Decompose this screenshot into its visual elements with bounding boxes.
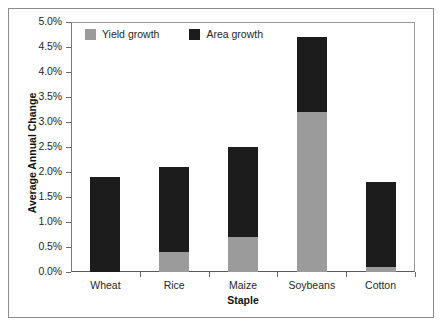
x-axis-tick-mark [140, 272, 141, 277]
bar-segment-area-growth [297, 37, 327, 112]
x-axis-title: Staple [71, 294, 415, 306]
y-axis-tick-mark [66, 22, 71, 23]
bar-cotton [366, 182, 396, 272]
y-axis-tick-mark [66, 222, 71, 223]
x-axis-tick-mark [277, 272, 278, 277]
legend-swatch-icon [189, 29, 200, 40]
y-axis-tick-mark [66, 72, 71, 73]
legend-label: Area growth [206, 28, 263, 40]
bar-rice [159, 167, 189, 272]
legend-item-yield-growth: Yield growth [85, 28, 159, 40]
y-axis-tick-label: 0.5% [38, 240, 62, 252]
bar-soybeans [297, 37, 327, 272]
x-axis-tick-mark [346, 272, 347, 277]
y-axis-tick-label: 3.5% [38, 90, 62, 102]
chart-legend: Yield growthArea growth [85, 28, 263, 40]
x-axis-tick-mark [209, 272, 210, 277]
y-axis-tick-label: 5.0% [38, 15, 62, 27]
bar-wheat [90, 177, 120, 272]
bar-segment-area-growth [90, 177, 120, 272]
y-axis-title: Average Annual Change [26, 63, 38, 243]
y-axis-tick-mark [66, 122, 71, 123]
x-axis-label-maize: Maize [209, 279, 278, 291]
bar-segment-yield-growth [228, 237, 258, 272]
bar-segment-area-growth [159, 167, 189, 252]
x-axis-label-rice: Rice [140, 279, 209, 291]
y-axis-tick-label: 4.5% [38, 40, 62, 52]
y-axis-tick-mark [66, 247, 71, 248]
y-axis-tick-mark [66, 47, 71, 48]
x-axis-label-cotton: Cotton [346, 279, 415, 291]
legend-label: Yield growth [102, 28, 159, 40]
bar-segment-area-growth [228, 147, 258, 237]
y-axis-tick-mark [66, 172, 71, 173]
y-axis-tick-label: 2.0% [38, 165, 62, 177]
legend-swatch-icon [85, 29, 96, 40]
chart-figure: 0.0%0.5%1.0%1.5%2.0%2.5%3.0%3.5%4.0%4.5%… [0, 0, 444, 326]
y-axis-tick-mark [66, 272, 71, 273]
y-axis-tick-label: 0.0% [38, 265, 62, 277]
bar-segment-yield-growth [159, 252, 189, 272]
y-axis-tick-label: 1.0% [38, 215, 62, 227]
bar-segment-area-growth [366, 182, 396, 267]
y-axis-tick-mark [66, 197, 71, 198]
bar-segment-yield-growth [366, 267, 396, 272]
y-axis-tick-label: 1.5% [38, 190, 62, 202]
y-axis-tick-label: 4.0% [38, 65, 62, 77]
x-axis-tick-mark [415, 272, 416, 277]
y-axis-tick-mark [66, 147, 71, 148]
y-axis-tick-label: 3.0% [38, 115, 62, 127]
y-axis-tick-mark [66, 97, 71, 98]
y-axis-tick-label: 2.5% [38, 140, 62, 152]
bar-segment-yield-growth [297, 112, 327, 272]
x-axis-label-wheat: Wheat [71, 279, 140, 291]
bar-maize [228, 147, 258, 272]
x-axis-label-soybeans: Soybeans [277, 279, 346, 291]
legend-item-area-growth: Area growth [189, 28, 263, 40]
